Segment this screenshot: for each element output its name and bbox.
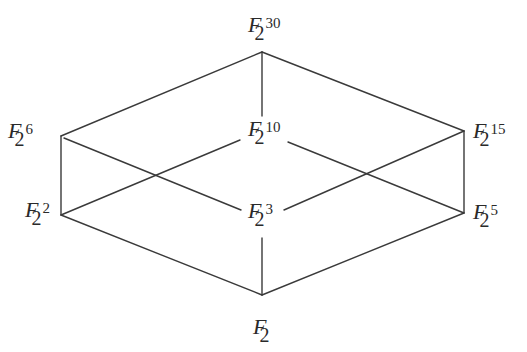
field-base: 2 (254, 22, 264, 44)
field-base: 2 (254, 208, 264, 230)
field-exponent: 30 (265, 15, 280, 31)
node-label-f2-30: F230 (248, 14, 280, 36)
field-exponent: 2 (42, 200, 50, 216)
node-label-f2-6: F26 (8, 120, 33, 142)
field-exponent: 3 (265, 201, 273, 217)
node-label-f2-3: F23 (248, 200, 273, 222)
edge-n30-n6 (61, 52, 262, 136)
node-label-f2-10: F210 (248, 118, 280, 140)
field-base: 2 (254, 126, 264, 148)
field-exponent: 6 (25, 121, 33, 137)
field-base: 2 (14, 128, 24, 150)
field-exponent: 15 (490, 121, 505, 137)
edge-n10-n5 (288, 142, 464, 213)
node-label-f2: F2 (253, 316, 270, 338)
edge-n2-n1 (61, 215, 262, 295)
edge-n10-n2 (61, 140, 240, 215)
edge-n30-n15 (262, 52, 464, 131)
field-exponent: 10 (265, 119, 280, 135)
edge-n5-n1 (262, 213, 464, 295)
node-label-f2-15: F215 (473, 120, 505, 142)
edge-n6-n3 (64, 138, 241, 210)
lattice-edges (61, 52, 464, 295)
field-exponent: 5 (490, 202, 498, 218)
field-base: 2 (479, 209, 489, 231)
node-label-f2-2: F22 (25, 199, 50, 221)
edge-n15-n3 (284, 131, 464, 210)
field-base: 2 (31, 207, 41, 229)
field-base: 2 (259, 324, 269, 346)
field-base: 2 (479, 128, 489, 150)
node-label-f2-5: F25 (473, 201, 498, 223)
lattice-diagram (0, 0, 527, 352)
